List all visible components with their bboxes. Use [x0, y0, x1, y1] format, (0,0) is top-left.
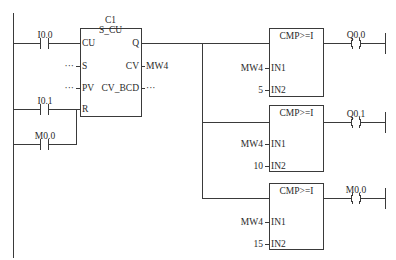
- pin-q: Q: [110, 38, 139, 48]
- cv-output-value: MW4: [146, 61, 168, 71]
- contact-m0-0[interactable]: [13, 109, 77, 150]
- comparator-1-in2-value: 5: [230, 85, 263, 95]
- cv-bcd-output-value: ···: [146, 83, 156, 93]
- contact-label-i0-1: I0.1: [30, 96, 60, 106]
- comparator-1-in1-value: MW4: [230, 63, 263, 73]
- comparator-title-2: CMP>=I: [269, 108, 324, 118]
- coil-label-q0-0: Q0.0: [340, 30, 372, 40]
- comparator-2-in1-pin: IN1: [271, 139, 286, 149]
- contact-label-i0-0: I0.0: [30, 30, 60, 40]
- pin-cv: CV: [110, 61, 139, 71]
- comparator-2-in2-pin: IN2: [271, 161, 286, 171]
- counter-type: S_CU: [90, 25, 131, 35]
- pin-cu: CU: [82, 38, 95, 48]
- comparator-3-in2-pin: IN2: [271, 239, 286, 249]
- comparator-2-in1-value: MW4: [230, 139, 263, 149]
- pv-input-value: ···: [56, 83, 74, 93]
- coil-label-q0-1: Q0.1: [340, 109, 372, 119]
- pin-r: R: [82, 104, 88, 114]
- comparator-1-in1-pin: IN1: [271, 63, 286, 73]
- counter-name: C1: [90, 15, 131, 25]
- comparator-3-in1-pin: IN1: [271, 217, 286, 227]
- comparator-1-in2-pin: IN2: [271, 85, 286, 95]
- comparator-3-in1-value: MW4: [230, 217, 263, 227]
- pin-s: S: [82, 61, 87, 71]
- comparator-title-3: CMP>=I: [269, 186, 324, 196]
- comparator-2-in2-value: 10: [230, 161, 263, 171]
- comparator-3-in2-value: 15: [230, 239, 263, 249]
- s-input-value: ···: [56, 61, 74, 71]
- contact-label-m0-0: M0.0: [29, 131, 61, 141]
- pin-pv: PV: [82, 83, 94, 93]
- comparator-title-1: CMP>=I: [269, 31, 324, 41]
- pin-cv-bcd: CV_BCD: [98, 83, 139, 93]
- coil-label-m0-0: M0.0: [340, 185, 372, 195]
